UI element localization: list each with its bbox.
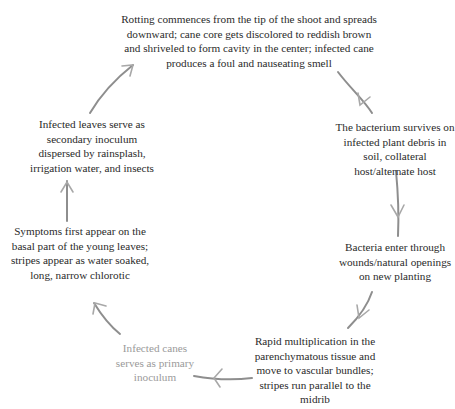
node-bacterium-survival: The bacterium survives on infected plant… [335,120,455,178]
node-rapid-multiplication: Rapid multiplication in the parenchymato… [248,334,382,407]
arrow-rotting-to-survival [338,72,372,113]
arrow-secondary-to-rotting [90,65,133,113]
node-primary-inoculum: Infected canes serves as primary inoculu… [112,341,198,385]
node-bacteria-entry: Bacteria enter through wounds/natural op… [332,240,455,284]
arrow-symptoms-to-secondary [61,181,73,221]
arrow-primary-to-symptoms [93,303,120,334]
node-symptoms: Symptoms first appear on the basal part … [10,224,150,282]
arrow-survival-to-entry [391,171,404,236]
node-secondary-inoculum: Infected leaves serve as secondary inocu… [26,117,158,175]
node-rotting: Rotting commences from the tip of the sh… [118,12,380,70]
arrow-multiplication-to-primary [194,369,252,387]
arrow-entry-to-multiplication [348,292,372,328]
